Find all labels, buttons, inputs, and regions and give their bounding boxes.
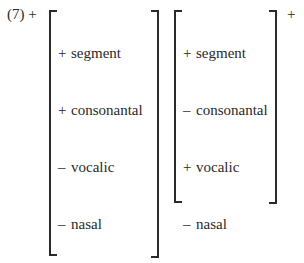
matrix-2: +segment –consonantal +vocalic –nasal +h…	[183, 6, 268, 263]
feature-row: –nasal	[183, 215, 268, 234]
matrix-1: +segment +consonantal –vocalic –nasal +h…	[58, 6, 143, 263]
feature-row: +vocalic	[183, 158, 268, 177]
trailing-plus: +	[287, 6, 295, 23]
feature-row: –consonantal	[183, 101, 268, 120]
matrix-1-left-bracket	[49, 10, 57, 256]
feature-row: +segment	[183, 44, 268, 63]
example-label: (7) +	[7, 6, 37, 23]
matrix-2-right-bracket	[269, 10, 277, 204]
feature-row: –nasal	[58, 215, 143, 234]
feature-row: +consonantal	[58, 101, 143, 120]
feature-row: –vocalic	[58, 158, 143, 177]
matrix-1-right-bracket	[151, 10, 159, 258]
feature-row: +segment	[58, 44, 143, 63]
matrix-2-left-bracket	[174, 10, 182, 203]
